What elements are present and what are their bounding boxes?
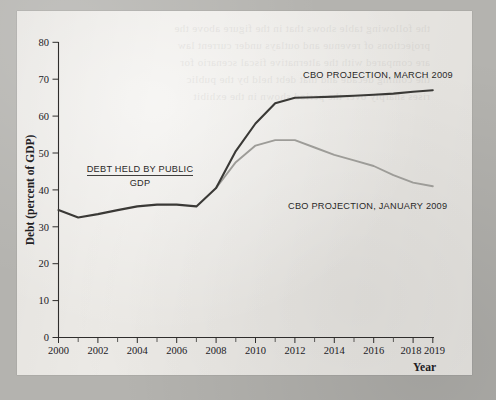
series-fraction-label: DEBT HELD BY PUBLIC GDP [87, 164, 194, 188]
x-axis-title: Year [413, 361, 436, 373]
series-label-denominator: GDP [130, 178, 151, 188]
x-tick-label-2000: 2000 [48, 345, 69, 356]
x-tick-label-2016: 2016 [363, 345, 384, 356]
y-tick-label-0: 0 [44, 332, 49, 343]
line-chart: 0 10 20 30 40 50 60 70 80 [0, 0, 496, 400]
y-tick-label-70: 70 [39, 74, 50, 85]
y-tick-label-50: 50 [39, 148, 50, 159]
y-tick-label-80: 80 [39, 37, 50, 48]
x-tick-label-2010: 2010 [245, 345, 266, 356]
y-axis-ticks: 0 10 20 30 40 50 60 70 80 [39, 37, 59, 343]
x-axis-ticks: 2000 2002 2004 2006 2008 2010 2012 2014 … [48, 338, 445, 357]
annotation-cbo-january-2009: CBO PROJECTION, JANUARY 2009 [288, 201, 447, 211]
x-tick-label-2006: 2006 [166, 345, 187, 356]
y-axis-title: Debt (percent of GDP) [24, 135, 37, 246]
x-tick-label-2012: 2012 [284, 345, 305, 356]
scanned-page-frame: the following table shows that in the fi… [0, 0, 496, 400]
y-tick-label-60: 60 [39, 111, 50, 122]
x-tick-label-2002: 2002 [87, 345, 108, 356]
y-tick-label-20: 20 [39, 258, 50, 269]
annotation-cbo-march-2009: CBO PROJECTION, MARCH 2009 [303, 70, 453, 80]
chart-svg: 0 10 20 30 40 50 60 70 80 [0, 0, 496, 400]
x-tick-label-2018: 2018 [401, 345, 422, 356]
y-tick-label-10: 10 [39, 295, 50, 306]
series-line-cbo-january-2009 [216, 140, 433, 188]
y-tick-label-40: 40 [39, 185, 50, 196]
x-tick-label-2008: 2008 [206, 345, 227, 356]
axes [58, 42, 434, 338]
x-tick-label-2019: 2019 [424, 345, 445, 356]
y-tick-label-30: 30 [39, 222, 50, 233]
x-tick-label-2014: 2014 [324, 345, 346, 356]
series-label-numerator: DEBT HELD BY PUBLIC [87, 164, 194, 174]
x-tick-label-2004: 2004 [127, 345, 149, 356]
